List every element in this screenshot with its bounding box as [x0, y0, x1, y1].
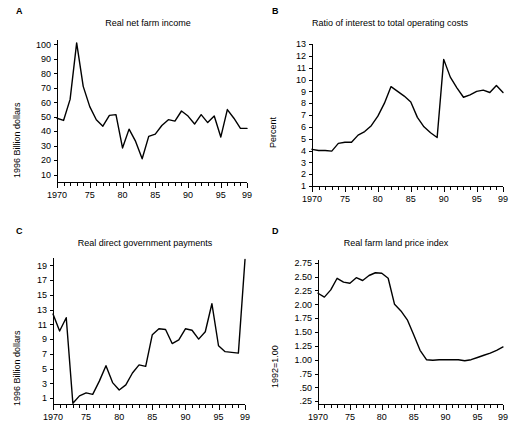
svg-text:1970: 1970	[302, 194, 322, 204]
svg-text:80: 80	[118, 190, 128, 200]
svg-text:10: 10	[296, 75, 306, 85]
svg-text:2.25: 2.25	[294, 286, 312, 296]
panel-d-plot: .25.50.751.001.251.501.752.002.252.502.7…	[256, 220, 512, 440]
svg-text:7: 7	[42, 349, 47, 359]
svg-text:1: 1	[301, 181, 306, 191]
svg-text:1.25: 1.25	[294, 341, 312, 351]
svg-text:17: 17	[37, 275, 47, 285]
svg-text:1: 1	[42, 393, 47, 403]
svg-text:6: 6	[301, 122, 306, 132]
svg-text:90: 90	[183, 190, 193, 200]
panel-c: C Real direct government payments 1996 B…	[0, 220, 256, 440]
svg-text:75: 75	[340, 194, 350, 204]
svg-text:75: 75	[81, 412, 91, 422]
svg-text:95: 95	[472, 412, 482, 422]
svg-text:1970: 1970	[43, 412, 63, 422]
svg-text:90: 90	[41, 54, 51, 64]
svg-text:10: 10	[41, 170, 51, 180]
svg-text:99: 99	[498, 412, 508, 422]
panel-b: B Ratio of interest to total operating c…	[256, 0, 512, 220]
svg-text:75: 75	[345, 412, 355, 422]
svg-text:11: 11	[38, 320, 47, 330]
svg-text:13: 13	[296, 39, 306, 49]
svg-text:9: 9	[301, 87, 306, 97]
svg-text:90: 90	[439, 194, 449, 204]
svg-text:1970: 1970	[47, 190, 67, 200]
svg-text:2.00: 2.00	[294, 300, 312, 310]
svg-text:13: 13	[37, 305, 47, 315]
svg-text:.50: .50	[299, 383, 312, 393]
svg-text:3: 3	[301, 158, 306, 168]
svg-text:60: 60	[41, 98, 51, 108]
svg-text:5: 5	[301, 134, 306, 144]
farm-economy-figure: A Real net farm income 1996 Billion doll…	[0, 0, 512, 440]
panel-a: A Real net farm income 1996 Billion doll…	[0, 0, 256, 220]
svg-text:40: 40	[41, 126, 51, 136]
svg-text:85: 85	[150, 190, 160, 200]
svg-text:99: 99	[240, 412, 250, 422]
svg-text:.25: .25	[299, 396, 312, 406]
svg-text:70: 70	[41, 83, 51, 93]
svg-text:95: 95	[214, 412, 224, 422]
svg-text:1.50: 1.50	[294, 327, 312, 337]
svg-text:85: 85	[409, 412, 419, 422]
svg-text:9: 9	[42, 334, 47, 344]
svg-text:2.75: 2.75	[294, 258, 312, 268]
svg-text:50: 50	[41, 112, 51, 122]
svg-text:1.75: 1.75	[294, 313, 312, 323]
svg-text:1970: 1970	[308, 412, 328, 422]
svg-text:95: 95	[472, 194, 482, 204]
svg-text:12: 12	[296, 51, 306, 61]
svg-text:85: 85	[147, 412, 157, 422]
svg-text:100: 100	[36, 40, 51, 50]
panel-d: D Real farm land price index 1992=1.00 .…	[256, 220, 512, 440]
svg-text:99: 99	[498, 194, 508, 204]
svg-text:7: 7	[301, 110, 306, 120]
svg-text:80: 80	[377, 412, 387, 422]
svg-text:90: 90	[180, 412, 190, 422]
svg-text:3: 3	[42, 379, 47, 389]
panel-a-plot: 1020304050607080901001970758085909599	[0, 0, 256, 220]
svg-text:80: 80	[114, 412, 124, 422]
svg-text:95: 95	[216, 190, 226, 200]
svg-text:19: 19	[37, 261, 47, 271]
svg-text:5: 5	[42, 364, 47, 374]
svg-text:90: 90	[441, 412, 451, 422]
svg-text:15: 15	[37, 290, 47, 300]
svg-text:.75: .75	[299, 369, 312, 379]
panel-c-plot: 1357911131517191970758085909599	[0, 220, 256, 440]
svg-text:99: 99	[242, 190, 252, 200]
svg-text:1.00: 1.00	[294, 355, 312, 365]
svg-text:2: 2	[301, 169, 306, 179]
svg-text:75: 75	[85, 190, 95, 200]
svg-text:80: 80	[373, 194, 383, 204]
svg-text:30: 30	[41, 141, 51, 151]
svg-text:80: 80	[41, 69, 51, 79]
panel-b-plot: 123456789101112131970758085909599	[256, 0, 512, 220]
svg-text:8: 8	[301, 98, 306, 108]
svg-text:2.50: 2.50	[294, 272, 312, 282]
svg-text:20: 20	[41, 155, 51, 165]
svg-text:11: 11	[297, 63, 306, 73]
svg-text:85: 85	[406, 194, 416, 204]
svg-text:4: 4	[301, 146, 306, 156]
